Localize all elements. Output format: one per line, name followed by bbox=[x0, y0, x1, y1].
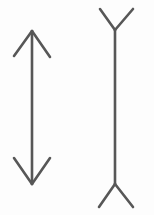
right-line-outward-fins bbox=[99, 9, 133, 207]
left-arrow-inward-fins bbox=[14, 31, 50, 184]
right-bottom-right-fin-icon bbox=[115, 184, 133, 207]
left-bottom-left-fin-icon bbox=[14, 158, 32, 184]
muller-lyer-figure bbox=[0, 0, 154, 215]
left-top-left-fin-icon bbox=[14, 31, 32, 56]
left-top-right-fin-icon bbox=[32, 31, 50, 57]
left-bottom-right-fin-icon bbox=[32, 158, 50, 184]
right-bottom-left-fin-icon bbox=[99, 184, 115, 207]
right-top-right-fin-icon bbox=[115, 9, 133, 30]
figure-canvas bbox=[0, 0, 154, 215]
right-top-left-fin-icon bbox=[100, 9, 115, 30]
